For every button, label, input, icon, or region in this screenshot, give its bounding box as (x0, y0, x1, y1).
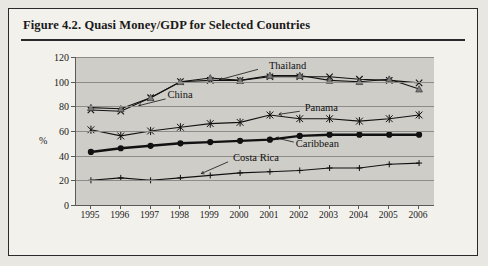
series-thailand (88, 74, 423, 115)
x-axis-tick (179, 205, 180, 209)
y-axis-tick (71, 131, 75, 132)
x-axis-tick-label: 2000 (230, 210, 249, 220)
x-axis-tick (120, 205, 121, 209)
x-axis-tick (329, 205, 330, 209)
series-annotation: Costa Rica (233, 152, 279, 163)
x-axis-tick-label: 2001 (259, 210, 278, 220)
x-axis-tick-label: 2005 (379, 210, 398, 220)
series-annotation: Panama (305, 102, 338, 113)
y-axis-tick (71, 205, 75, 206)
x-axis-tick (269, 205, 270, 209)
chart-area: % 02040608010012019951996199719981999200… (9, 43, 479, 255)
x-axis-tick-label: 1997 (140, 210, 159, 220)
x-axis-tick-label: 1998 (170, 210, 189, 220)
y-axis-tick-label: 0 (33, 200, 69, 211)
gridline (76, 57, 434, 58)
title-divider (21, 39, 465, 41)
y-axis-tick (71, 156, 75, 157)
gridline (76, 131, 434, 132)
y-axis-label: % (39, 135, 47, 146)
series-annotation: Caribbean (296, 138, 339, 149)
x-axis-tick (388, 205, 389, 209)
x-axis-tick (418, 205, 419, 209)
annotation-leader (279, 111, 300, 115)
series-annotation: Thailand (269, 60, 306, 71)
y-axis-tick-label: 40 (33, 150, 69, 161)
y-axis-tick-label: 60 (33, 126, 69, 137)
gridline (76, 82, 434, 83)
x-axis-tick-label: 2002 (289, 210, 308, 220)
y-axis-tick-label: 20 (33, 175, 69, 186)
gridline (76, 106, 434, 107)
y-axis-tick (71, 82, 75, 83)
plot-canvas (75, 57, 434, 206)
x-axis-tick-label: 2006 (409, 210, 428, 220)
y-axis-tick-label: 120 (33, 52, 69, 63)
y-axis-tick-label: 100 (33, 76, 69, 87)
annotation-leader (201, 162, 228, 174)
gridline (76, 180, 434, 181)
x-axis-tick (90, 205, 91, 209)
y-axis-tick-label: 80 (33, 101, 69, 112)
y-axis-tick (71, 106, 75, 107)
x-axis-tick-label: 2003 (319, 210, 338, 220)
figure-title: Figure 4.2. Quasi Money/GDP for Selected… (23, 18, 310, 33)
x-axis-tick (239, 205, 240, 209)
x-axis-tick-label: 1995 (80, 210, 99, 220)
x-axis-tick-label: 2004 (349, 210, 368, 220)
y-axis-tick (71, 57, 75, 58)
x-axis-tick (358, 205, 359, 209)
x-axis-tick (150, 205, 151, 209)
x-axis-tick (299, 205, 300, 209)
y-axis-tick (71, 180, 75, 181)
series-annotation: China (167, 89, 192, 100)
x-axis-tick (209, 205, 210, 209)
x-axis-tick-label: 1999 (200, 210, 219, 220)
x-axis-tick-label: 1996 (110, 210, 129, 220)
figure-frame: Figure 4.2. Quasi Money/GDP for Selected… (8, 8, 478, 256)
